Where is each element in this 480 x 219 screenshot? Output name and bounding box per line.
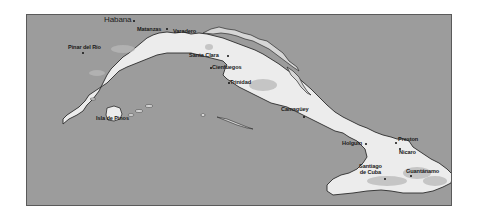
capital-label-habana: Habana: [104, 15, 131, 24]
map-frame: Habana Pinar del Río Matanzas Varadero S…: [26, 14, 452, 206]
cay-south-2: [135, 110, 143, 113]
city-label-guantanamo: Guantánamo: [406, 168, 439, 174]
city-label-pinar-del-rio: Pinar del Río: [68, 44, 101, 50]
city-label-holguin: Holguín: [342, 140, 362, 146]
city-label-nicaro: Nicaro: [399, 149, 416, 155]
city-label-trinidad: Trinidad: [230, 79, 251, 85]
cay-south-5: [201, 114, 205, 117]
city-label-preston: Preston: [398, 136, 418, 142]
cay-south-3: [145, 105, 153, 108]
city-label-camaguey: Camagüey: [281, 106, 309, 112]
city-label-santa-clara: Santa Clara: [189, 52, 219, 58]
jardines-de-la-reina: [217, 117, 253, 129]
city-label-varadero: Varadero: [173, 28, 196, 34]
city-label-cienfuegos: Cienfuegos: [212, 64, 241, 70]
city-label-santiago-de-cuba: Santiago de Cuba: [359, 163, 382, 175]
city-label-matanzas: Matanzas: [137, 26, 161, 32]
island-label-isla-de-pinos: Isla de Pinos: [96, 115, 129, 121]
cay-south-4: [90, 98, 96, 100]
